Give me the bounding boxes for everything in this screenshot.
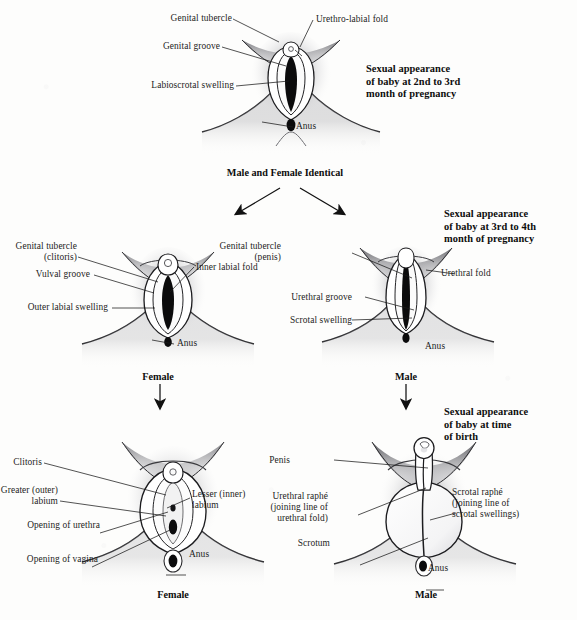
label-opening-of-vagina: Opening of vagina xyxy=(0,554,98,565)
label-urethro-labial-fold-top: Urethro-labial fold xyxy=(316,14,388,25)
label-scrotum: Scrotum xyxy=(262,538,330,549)
label-anus-female-mid: Anus xyxy=(177,338,197,349)
label-genital-tubercle-top: Genital tubercle xyxy=(120,13,232,24)
label-vulval-groove: Vulval groove xyxy=(0,269,90,280)
label-urethral-raphe-line1: Urethral raphé xyxy=(236,491,328,502)
label-inner-labial-fold: Inner labial fold xyxy=(196,262,258,273)
label-genital-tubercle-male-sub: (penis) xyxy=(196,252,281,263)
label-penis: Penis xyxy=(240,455,290,466)
stage-heading-month-2-3: Sexual appearance of baby at 2nd to 3rd … xyxy=(366,63,460,101)
label-urethral-fold: Urethral fold xyxy=(441,268,491,279)
label-genital-tubercle-female: Genital tubercle xyxy=(0,241,77,252)
label-labioscrotal-swelling-top: Labioscrotal swelling xyxy=(106,80,234,91)
sex-label-male-birth: Male xyxy=(376,589,476,601)
progress-arrow-male xyxy=(396,382,416,422)
label-greater-labium-line2: labium xyxy=(0,496,58,507)
label-opening-of-urethra: Opening of urethra xyxy=(0,520,100,531)
label-urethral-groove: Urethral groove xyxy=(256,292,352,303)
label-scrotal-raphe-line1: Scrotal raphé xyxy=(452,487,503,498)
sex-label-female-birth: Female xyxy=(123,589,223,601)
figure-page: Genital tubercle Genital groove Labioscr… xyxy=(0,0,577,620)
stage-heading-birth: Sexual appearance of baby at time of bir… xyxy=(444,406,528,444)
label-scrotal-raphe-line3: scrotal swellings) xyxy=(452,509,519,520)
label-genital-tubercle-male: Genital tubercle xyxy=(196,241,281,252)
label-anus-male-birth: Anus xyxy=(428,563,448,574)
indifferent-leader-lines xyxy=(0,0,577,180)
label-lesser-labium-line2: labium xyxy=(192,500,219,511)
label-urethral-raphe-line2: (joining line of xyxy=(236,502,328,513)
label-urethral-raphe-line3: urethral fold) xyxy=(236,513,328,524)
label-clitoris: Clitoris xyxy=(0,457,42,468)
label-genital-tubercle-female-sub: (clitoris) xyxy=(0,252,77,263)
progress-arrow-female xyxy=(150,382,170,422)
label-scrotal-raphe-line2: (joining line of xyxy=(452,498,510,509)
branch-arrows xyxy=(160,182,420,232)
stage-heading-month-3-4: Sexual appearance of baby at 3rd to 4th … xyxy=(444,208,536,246)
label-greater-labium-line1: Greater (outer) xyxy=(0,485,58,496)
label-anus-female-birth: Anus xyxy=(189,549,209,560)
label-scrotal-swelling: Scrotal swelling xyxy=(258,315,352,326)
label-anus-top: Anus xyxy=(296,121,316,132)
divider-male-female-identical: Male and Female Identical xyxy=(155,167,415,179)
label-outer-labial-swelling: Outer labial swelling xyxy=(0,302,108,313)
label-genital-groove-top: Genital groove xyxy=(120,41,220,52)
label-anus-male-mid: Anus xyxy=(425,341,445,352)
